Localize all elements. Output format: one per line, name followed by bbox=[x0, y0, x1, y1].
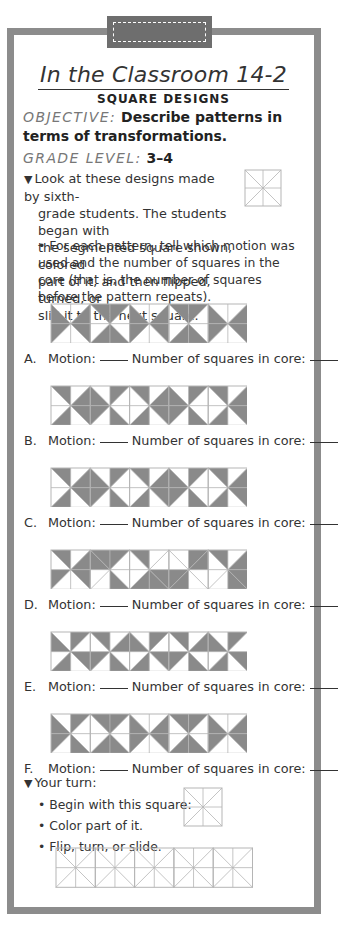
pattern-strip bbox=[50, 631, 247, 671]
core-label: Number of squares in core: bbox=[132, 433, 306, 448]
blank-pattern-strip[interactable] bbox=[55, 847, 254, 889]
question-line: C.Motion:Number of squares in core: bbox=[24, 515, 342, 530]
grade-label: GRADE LEVEL: bbox=[23, 150, 142, 166]
question-line: E.Motion:Number of squares in core: bbox=[24, 679, 342, 694]
motion-label: Motion: bbox=[48, 679, 96, 694]
core-answer-blank[interactable] bbox=[310, 606, 338, 607]
question-letter: D. bbox=[24, 597, 48, 612]
card-tab bbox=[107, 16, 212, 48]
triangle-marker-icon: ▼ bbox=[24, 173, 32, 186]
triangle-marker-icon: ▼ bbox=[24, 777, 32, 790]
motion-label: Motion: bbox=[48, 597, 96, 612]
motion-label: Motion: bbox=[48, 515, 96, 530]
page-title: In the Classroom 14-2 bbox=[0, 62, 327, 87]
core-answer-blank[interactable] bbox=[310, 688, 338, 689]
motion-label: Motion: bbox=[48, 351, 96, 366]
pattern-strip bbox=[50, 467, 247, 507]
motion-answer-blank[interactable] bbox=[100, 442, 128, 443]
segmented-square-icon bbox=[244, 169, 282, 207]
core-label: Number of squares in core: bbox=[132, 515, 306, 530]
objective-label: OBJECTIVE: bbox=[23, 109, 116, 125]
question-letter: E. bbox=[24, 679, 48, 694]
core-answer-blank[interactable] bbox=[310, 360, 338, 361]
core-answer-blank[interactable] bbox=[310, 442, 338, 443]
question-line: D.Motion:Number of squares in core: bbox=[24, 597, 342, 612]
instruction-bullet: • For each pattern, tell which motion wa… bbox=[38, 237, 298, 305]
grade-value: 3–4 bbox=[147, 150, 173, 166]
motion-answer-blank[interactable] bbox=[100, 524, 128, 525]
question-line: A.Motion:Number of squares in core: bbox=[24, 351, 342, 366]
question-line: B.Motion:Number of squares in core: bbox=[24, 433, 342, 448]
pattern-strip bbox=[50, 385, 247, 425]
core-label: Number of squares in core: bbox=[132, 597, 306, 612]
start-square-icon bbox=[183, 787, 223, 829]
grade-level: GRADE LEVEL: 3–4 bbox=[23, 150, 173, 166]
question-letter: A. bbox=[24, 351, 48, 366]
step-item: • Color part of it. bbox=[24, 815, 192, 836]
question-letter: C. bbox=[24, 515, 48, 530]
title-text: In the Classroom 14-2 bbox=[38, 62, 289, 90]
intro-line: grade students. The students began with bbox=[24, 205, 234, 239]
subtitle: SQUARE DESIGNS bbox=[0, 92, 327, 106]
core-answer-blank[interactable] bbox=[310, 524, 338, 525]
step-item: • Begin with this square: bbox=[24, 794, 192, 815]
motion-answer-blank[interactable] bbox=[100, 688, 128, 689]
motion-label: Motion: bbox=[48, 433, 96, 448]
your-turn-title: Your turn: bbox=[34, 775, 96, 790]
intro-line: Look at these designs made by sixth- bbox=[24, 171, 215, 204]
tab-dashed-border bbox=[113, 22, 206, 42]
your-turn: ▼Your turn: • Begin with this square: • … bbox=[24, 772, 192, 857]
core-answer-blank[interactable] bbox=[310, 770, 338, 771]
pattern-strip bbox=[50, 549, 247, 589]
pattern-strip bbox=[50, 713, 247, 753]
core-label: Number of squares in core: bbox=[132, 351, 306, 366]
core-label: Number of squares in core: bbox=[132, 679, 306, 694]
motion-answer-blank[interactable] bbox=[100, 606, 128, 607]
objective: OBJECTIVE: Describe patterns in terms of… bbox=[23, 108, 308, 146]
motion-answer-blank[interactable] bbox=[100, 770, 128, 771]
motion-answer-blank[interactable] bbox=[100, 360, 128, 361]
question-letter: B. bbox=[24, 433, 48, 448]
pattern-strip bbox=[50, 303, 247, 343]
